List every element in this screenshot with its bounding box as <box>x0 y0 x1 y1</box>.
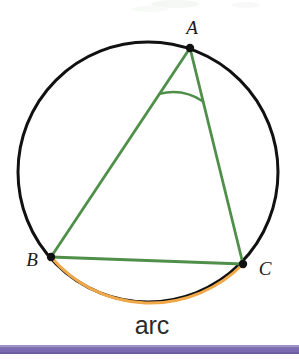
footer-bar-highlight <box>0 345 299 347</box>
vertex-label-a: A <box>184 17 198 38</box>
footer-bar-shadow <box>0 352 299 354</box>
vertex-label-c: C <box>259 258 272 279</box>
scan-smudge-lower <box>132 6 168 12</box>
vertex-dot-a <box>186 44 194 52</box>
diagram-background <box>0 0 299 359</box>
arc-caption-label: arc <box>135 311 170 339</box>
vertex-dot-b <box>47 253 55 261</box>
inscribed-angle-diagram: A B C arc <box>0 0 299 359</box>
scan-smudge-right <box>232 2 260 8</box>
footer-bar-group <box>0 345 299 354</box>
vertex-dot-c <box>239 260 247 268</box>
vertex-label-b: B <box>26 249 38 270</box>
